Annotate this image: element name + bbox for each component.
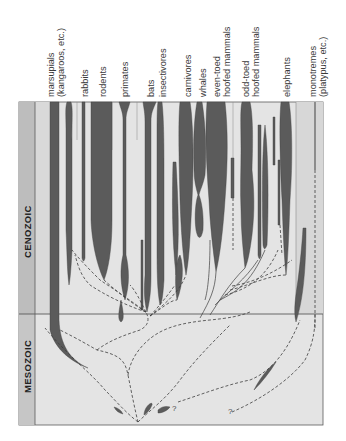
label-insectivores: insectivores [158,48,168,97]
label-even-toed-sub: hoofed mammals [222,26,232,97]
label-even-toed: even-toed [212,56,222,97]
label-odd-toed-sub: hoofed mammals [251,26,261,97]
lineage-insectivores [157,102,164,305]
group-labels: marsupials (kangaroos, etc.) rabbits rod… [46,26,328,98]
diagram-frame [19,102,323,425]
label-rabbits: rabbits [80,69,90,97]
label-rodents: rodents [98,66,108,97]
uncertain-mark-2: ? [228,407,233,416]
label-odd-toed: odd-toed [241,61,251,97]
mammal-radiation-diagram: marsupials (kangaroos, etc.) rabbits rod… [0,0,346,441]
label-monotremes-sub: (platypus, etc.) [318,37,328,97]
era-label-cenozoic: CENOZOIC [22,205,33,258]
label-marsupials-sub: (kangaroos, etc.) [56,28,66,97]
label-carnivores: carnivores [183,54,193,97]
label-elephants: elephants [282,57,292,97]
label-monotremes: monotremes [308,46,318,97]
era-label-mesozoic: MESOZOIC [22,340,33,393]
uncertain-mark-1: ? [172,404,177,413]
label-whales: whales [198,68,208,98]
label-marsupials: marsupials [46,52,56,97]
label-primates: primates [120,61,130,97]
label-bats: bats [146,79,156,97]
